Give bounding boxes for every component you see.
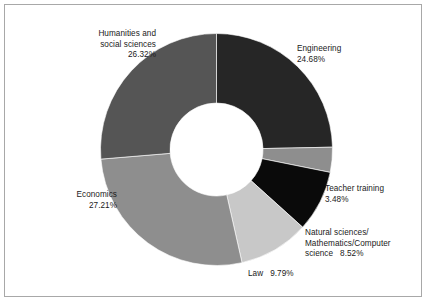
slice-label-engineering: Engineering 24.68% bbox=[297, 44, 417, 65]
slice-label-teacher-training: Teacher training 3.48% bbox=[325, 184, 425, 205]
slice-label-law: Law 9.79% bbox=[248, 269, 338, 280]
slice-label-humanities: Humanities and social sciences 26.32% bbox=[52, 29, 156, 61]
slice-label-natural-sciences: Natural sciences/ Mathematics/Computer s… bbox=[305, 228, 425, 260]
slice-label-economics: Economics 27.21% bbox=[30, 190, 117, 211]
chart-plot-area: Humanities and social sciences 26.32% En… bbox=[0, 0, 427, 302]
donut-chart-figure: Humanities and social sciences 26.32% En… bbox=[0, 0, 427, 302]
donut-slices bbox=[101, 34, 333, 266]
donut-slice-economics[interactable] bbox=[101, 153, 242, 265]
